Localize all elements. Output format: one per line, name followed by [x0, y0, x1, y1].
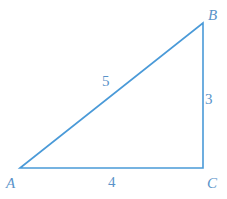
triangle-diagram: A B C 5 3 4	[0, 0, 227, 199]
side-label-bc: 3	[205, 91, 213, 107]
vertex-label-b: B	[208, 7, 217, 23]
side-label-ab: 5	[102, 73, 110, 89]
side-label-ac: 4	[108, 174, 116, 190]
triangle-abc	[20, 23, 203, 168]
vertex-label-a: A	[5, 175, 16, 191]
vertex-label-c: C	[207, 175, 218, 191]
